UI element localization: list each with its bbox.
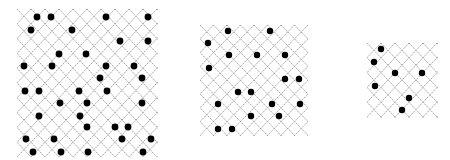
- lattice-dot: [145, 38, 152, 45]
- lattice-dot: [226, 52, 232, 58]
- lattice-dot: [145, 14, 152, 21]
- lattice-dot: [34, 14, 41, 21]
- lattice-dot: [225, 28, 231, 34]
- lattice-dot: [21, 63, 28, 70]
- lattice-dot: [51, 136, 58, 143]
- lattice-dot: [139, 75, 146, 82]
- lattice-dot: [205, 40, 211, 46]
- lattice-dot: [392, 70, 398, 76]
- lattice-dot: [83, 51, 90, 58]
- lattice-dot: [57, 100, 64, 107]
- lattice-dot: [282, 52, 288, 58]
- lattice-grid: [200, 25, 308, 136]
- lattice-dot: [148, 136, 155, 143]
- lattice-dot: [248, 89, 254, 95]
- lattice-dot: [22, 88, 29, 95]
- lattice-dot: [267, 28, 273, 34]
- lattice-dot: [399, 107, 405, 113]
- lattice-dot: [84, 124, 91, 131]
- lattice-dot: [30, 149, 37, 156]
- lattice-dot: [119, 136, 126, 143]
- lattice-dot: [56, 51, 63, 58]
- lattice-dot: [229, 126, 235, 132]
- lattice-dot: [131, 63, 138, 70]
- lattice-dot: [69, 27, 76, 34]
- lattice-dot: [371, 59, 377, 65]
- lattice-dot: [103, 14, 110, 21]
- lattice-dot: [269, 101, 275, 107]
- lattice-dot: [58, 149, 65, 156]
- lattice-dot: [297, 101, 303, 107]
- lattice-dot: [282, 76, 288, 82]
- lattice-dot: [296, 76, 302, 82]
- lattice-dot: [140, 149, 147, 156]
- lattice-dot: [248, 113, 254, 119]
- lattice-dot: [36, 88, 43, 95]
- lattice-dot: [97, 75, 104, 82]
- lattice-dot: [48, 14, 55, 21]
- lattice-dot: [139, 100, 146, 107]
- lattice-grid: [17, 9, 158, 157]
- lattice-dot: [85, 149, 92, 156]
- lattice-dot: [235, 89, 241, 95]
- lattice-dot: [77, 113, 84, 120]
- lattice-dot: [419, 70, 425, 76]
- lattice-dot: [254, 52, 260, 58]
- lattice-dot: [378, 46, 384, 52]
- lattice-dot: [84, 100, 91, 107]
- lattice-panel-medium: [200, 25, 308, 136]
- lattice-dot: [23, 136, 30, 143]
- lattice-grid: [367, 43, 438, 118]
- lattice-dot: [215, 126, 221, 132]
- lattice-dot: [276, 113, 282, 119]
- lattice-dot: [36, 113, 43, 120]
- lattice-dot: [206, 65, 212, 71]
- lattice-dot: [117, 38, 124, 45]
- lattice-dot: [215, 101, 221, 107]
- lattice-panel-large: [17, 9, 158, 157]
- lattice-dot: [125, 124, 132, 131]
- lattice-dot: [76, 88, 83, 95]
- lattice-dot: [406, 95, 412, 101]
- lattice-dot: [104, 88, 111, 95]
- lattice-dot: [112, 124, 119, 131]
- lattice-dot: [372, 83, 378, 89]
- lattice-panel-small: [367, 43, 438, 118]
- lattice-dot: [103, 63, 110, 70]
- lattice-dot: [28, 27, 35, 34]
- lattice-dot: [49, 63, 56, 70]
